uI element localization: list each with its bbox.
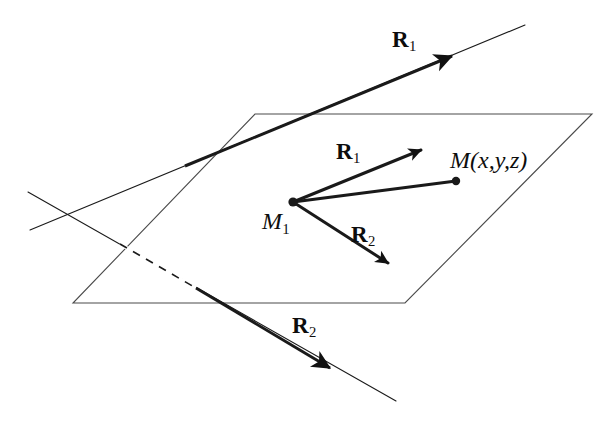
- diagram-canvas: [0, 0, 608, 423]
- label-m-xyz: M(x,y,z): [450, 148, 527, 172]
- subscript: 1: [353, 150, 360, 166]
- label-r1-inner: R1: [336, 140, 360, 163]
- label-r1-top: R1: [392, 28, 416, 51]
- label-r2-bottom: R2: [292, 314, 316, 337]
- subscript: 2: [309, 324, 316, 340]
- label-m1: M1: [262, 209, 289, 233]
- subscript: 1: [282, 221, 289, 237]
- vector-plane-diagram: R1 R2 R1 R2 M1 M(x,y,z): [0, 0, 608, 423]
- parallelogram-plane: [73, 114, 592, 303]
- subscript: 2: [368, 233, 375, 249]
- plane-group: [73, 114, 592, 303]
- label-r2-inner: R2: [351, 223, 375, 246]
- point-m-xyz: [452, 177, 460, 185]
- subscript: 1: [409, 38, 416, 54]
- external-line-r2-dash-mask-0: [120, 244, 196, 288]
- external-line-r1-thick-arrow: [185, 56, 452, 166]
- point-m1: [288, 197, 297, 206]
